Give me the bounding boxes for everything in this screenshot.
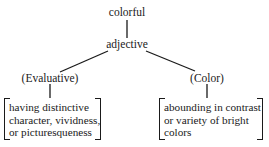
- bracket-bottom-left: [5, 139, 10, 140]
- edge-pos-to-color: [146, 51, 195, 71]
- bracket-top-left: [160, 98, 165, 99]
- definition-line: abounding in contrast: [164, 101, 257, 114]
- bracket-bottom-right: [95, 139, 100, 140]
- bracket-top-right: [95, 98, 100, 99]
- edge-pos-to-evaluative: [60, 51, 108, 72]
- bracket-bottom-right: [257, 139, 262, 140]
- definition-line: or picturesqueness: [9, 126, 95, 139]
- sense-node-evaluative: (Evaluative): [22, 73, 79, 85]
- definition-line: character, vividness,: [9, 114, 95, 127]
- definition-box-color: abounding in contrast or variety of brig…: [159, 98, 263, 140]
- definition-line: or variety of bright: [164, 114, 257, 127]
- definition-line: colors: [164, 126, 257, 139]
- root-node-colorful: colorful: [109, 7, 145, 19]
- bracket-top-left: [5, 98, 10, 99]
- sense-node-color: (Color): [190, 73, 224, 85]
- definition-box-evaluative: having distinctive character, vividness,…: [4, 98, 101, 140]
- pos-node-adjective: adjective: [106, 39, 148, 51]
- bracket-bottom-left: [160, 139, 165, 140]
- bracket-top-right: [257, 98, 262, 99]
- definition-line: having distinctive: [9, 101, 95, 114]
